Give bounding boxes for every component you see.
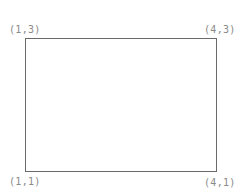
corner-label-bottom-right: (4,1) bbox=[204, 177, 236, 188]
rectangle-shape bbox=[25, 38, 217, 172]
corner-label-top-left: (1,3) bbox=[9, 24, 41, 36]
corner-label-bottom-left: (1,1) bbox=[9, 176, 41, 188]
corner-label-top-right: (4,3) bbox=[204, 24, 236, 36]
